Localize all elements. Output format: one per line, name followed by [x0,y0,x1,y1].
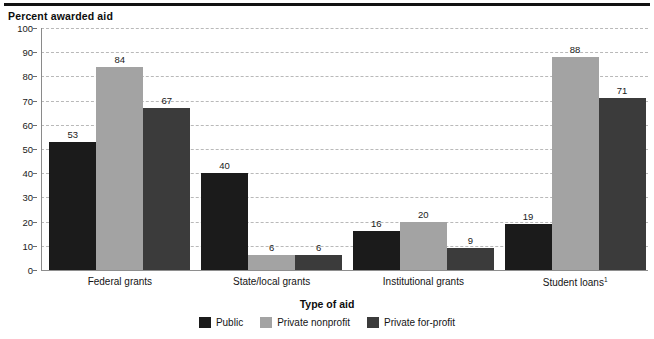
y-axis-tick-label: 40 [22,168,33,179]
bar-groups: 538467406616209198871 [41,28,648,270]
y-axis-tick-mark [33,76,37,77]
bar[interactable]: 40 [201,173,248,270]
y-axis-tick-mark [33,222,37,223]
legend-label: Public [216,317,243,328]
y-axis-tick-label: 80 [22,71,33,82]
legend-label: Private nonprofit [277,317,350,328]
x-axis-category-label: Institutional grants [383,276,464,287]
y-axis-tick-label: 20 [22,216,33,227]
bar[interactable]: 19 [505,224,552,270]
y-axis-tick-mark [33,246,37,247]
bar-group: 16209 [353,28,494,270]
bar-value-label: 84 [115,54,126,65]
y-axis-tick-mark [33,149,37,150]
y-axis-tick-mark [33,173,37,174]
x-axis-category-labels: Federal grantsState/local grantsInstitut… [41,276,648,294]
legend-item[interactable]: Private nonprofit [260,317,350,328]
legend-label: Private for-profit [384,317,455,328]
bar[interactable]: 84 [96,67,143,270]
bar[interactable]: 88 [552,57,599,270]
bar-group: 538467 [49,28,190,270]
bar[interactable]: 67 [143,108,190,270]
bar-value-label: 9 [468,235,473,246]
y-axis-tick-mark [33,52,37,53]
y-axis-tick-mark [33,101,37,102]
bar-group: 4066 [201,28,342,270]
gridline [41,270,648,271]
y-axis-tick-labels: 0102030405060708090100 [0,28,38,270]
footnote-marker: 1 [604,276,608,283]
y-axis-tick-label: 70 [22,95,33,106]
bar-value-label: 67 [162,95,173,106]
top-rule [4,3,650,6]
bar[interactable]: 53 [49,142,96,270]
legend-item[interactable]: Private for-profit [367,317,455,328]
y-axis-tick-mark [33,125,37,126]
x-axis-title: Type of aid [0,298,654,310]
bar-value-label: 19 [523,211,534,222]
bar-group: 198871 [505,28,646,270]
x-axis-category-label: Student loans1 [543,276,608,288]
y-axis-tick-label: 60 [22,119,33,130]
plot-area: 538467406616209198871 [41,28,648,270]
x-axis-category-label: Federal grants [88,276,152,287]
bar[interactable]: 71 [599,98,646,270]
bar-value-label: 20 [418,209,429,220]
y-axis-tick-label: 30 [22,192,33,203]
y-axis-tick-label: 90 [22,47,33,58]
bar-value-label: 53 [68,129,79,140]
bar-value-label: 6 [269,242,274,253]
y-axis-title: Percent awarded aid [8,10,113,22]
legend: PublicPrivate nonprofitPrivate for-profi… [0,317,654,328]
bar[interactable]: 9 [447,248,494,270]
y-axis-tick-label: 10 [22,240,33,251]
chart-figure: Percent awarded aid 01020304050607080901… [0,0,654,339]
bar-value-label: 71 [617,85,628,96]
y-axis-tick-mark [33,270,37,271]
bar[interactable]: 20 [400,222,447,270]
bar-value-label: 88 [570,44,581,55]
bar[interactable]: 6 [248,255,295,270]
bar[interactable]: 6 [295,255,342,270]
y-axis-tick-mark [33,28,37,29]
legend-item[interactable]: Public [199,317,243,328]
legend-swatch [367,317,379,328]
y-axis-tick-label: 50 [22,144,33,155]
legend-swatch [260,317,272,328]
bar-value-label: 16 [371,218,382,229]
y-axis-tick-label: 100 [17,23,33,34]
bar[interactable]: 16 [353,231,400,270]
bar-value-label: 40 [219,160,230,171]
bar-value-label: 6 [316,242,321,253]
legend-swatch [199,317,211,328]
y-axis-tick-mark [33,197,37,198]
x-axis-category-label: State/local grants [233,276,310,287]
